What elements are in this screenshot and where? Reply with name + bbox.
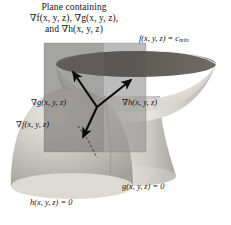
label-level-surface-f-text: f(x, y, z) = c — [139, 34, 179, 43]
lagrange-multiplier-figure: Plane containing ∇f(x, y, z), ∇g(x, y, z… — [0, 0, 231, 225]
figure-title-line-2: ∇f(x, y, z), ∇g(x, y, z), — [8, 13, 140, 24]
label-level-surface-f-subscript: min — [179, 36, 189, 43]
label-constraint-g: g(x, y, z) = 0 — [122, 182, 164, 191]
label-gradient-h: ∇h(x, y, z) — [122, 97, 157, 107]
figure-title-line-3: and ∇h(x, y, z) — [8, 24, 140, 35]
figure-title: Plane containing ∇f(x, y, z), ∇g(x, y, z… — [8, 2, 140, 35]
label-constraint-h: h(x, y, z) = 0 — [30, 198, 72, 207]
surface-g-base-ellipse — [11, 173, 133, 199]
label-gradient-f: ∇f(x, y, z) — [16, 119, 49, 129]
figure-title-line-1: Plane containing — [8, 2, 140, 13]
label-gradient-g: ∇g(x, y, z) — [31, 97, 66, 107]
label-level-surface-f: f(x, y, z) = cmin — [139, 34, 189, 43]
